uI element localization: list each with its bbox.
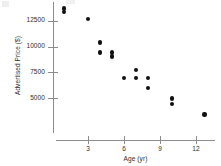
data-point bbox=[170, 96, 174, 100]
data-point bbox=[62, 10, 66, 14]
data-point bbox=[98, 50, 102, 54]
data-point bbox=[110, 54, 114, 58]
scatter-plot-figure: 500075001000012500 36912 Age (yr) Advert… bbox=[0, 0, 221, 166]
y-axis-title: Advertised Price ($) bbox=[14, 11, 21, 121]
data-point bbox=[98, 40, 102, 44]
data-point bbox=[86, 17, 90, 21]
data-point bbox=[170, 102, 174, 106]
data-point bbox=[122, 76, 126, 80]
x-axis-title: Age (yr) bbox=[56, 155, 215, 162]
data-point bbox=[146, 76, 150, 80]
plot-data-area bbox=[0, 0, 221, 166]
data-point bbox=[202, 112, 206, 116]
data-point bbox=[146, 86, 150, 90]
data-point bbox=[134, 76, 138, 80]
data-point bbox=[134, 68, 138, 72]
